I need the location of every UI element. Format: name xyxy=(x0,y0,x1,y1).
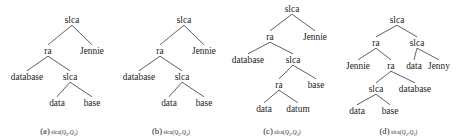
tree-node-root: slca xyxy=(390,15,405,25)
caption-q1-subscript: 2 xyxy=(66,132,68,137)
caption-fn-name: slca( xyxy=(164,129,175,135)
tree-node-inner-slca: slca xyxy=(175,72,190,82)
tree-edge xyxy=(357,94,376,105)
panel-a-edges xyxy=(0,0,118,140)
panel-c: slcaraJenniedatabaseslcarabasedatadatum(… xyxy=(222,0,342,140)
tree-node-right-child: Jennie xyxy=(80,46,104,56)
tree-node-left-child: ra xyxy=(44,46,51,56)
tree-edge xyxy=(376,94,390,105)
caption-expression: slca(Q2,Q2) xyxy=(391,129,417,135)
tree-edge xyxy=(160,25,184,45)
panel-a-caption: (a)slca(Q2,Q2) xyxy=(0,126,118,137)
caption-expression: slca(Q2,Q2) xyxy=(274,129,300,135)
tree-edge xyxy=(358,48,376,60)
tree-node-left-ra: ra xyxy=(372,38,379,48)
tree-node-data-leaf: data xyxy=(161,98,177,108)
tree-node-data-leaf: data xyxy=(256,104,272,114)
tree-node-database-leaf: database xyxy=(399,84,431,94)
tree-node-database-leaf: database xyxy=(232,55,264,65)
tree-node-jenny-leaf: Jenny xyxy=(428,61,450,71)
tree-node-base-leaf: base xyxy=(84,98,101,108)
tree-node-inner-slca: slca xyxy=(286,55,301,65)
tree-node-database-leaf: database xyxy=(11,72,43,82)
tree-edge xyxy=(376,48,391,60)
caption-tag: (a) xyxy=(40,126,50,136)
tree-node-right-slca: slca xyxy=(410,38,425,48)
tree-node-base-leaf: base xyxy=(308,80,325,90)
tree-edge xyxy=(48,56,70,71)
tree-node-left-child: ra xyxy=(156,46,163,56)
panel-d-caption: (d)slca(Q2,Q2) xyxy=(337,126,460,137)
tree-node-data-leaf-top: data xyxy=(406,61,422,71)
tree-node-inner-slca: slca xyxy=(369,84,384,94)
tree-edge xyxy=(376,25,397,37)
caption-q1-subscript: 2 xyxy=(289,132,291,137)
panel-c-caption: (c)slca(Q2,Q2) xyxy=(222,126,342,137)
tree-edge xyxy=(292,14,315,31)
tree-node-root: slca xyxy=(285,4,300,14)
tree-node-jennie-leaf: Jennie xyxy=(346,61,370,71)
caption-expression: slca(Q2,Q2) xyxy=(51,129,77,135)
tree-edge xyxy=(184,25,204,45)
caption-q2-subscript: 2 xyxy=(297,132,299,137)
panel-b-edges xyxy=(112,0,230,140)
tree-node-root: slca xyxy=(177,15,192,25)
caption-fn-name: slca( xyxy=(51,129,62,135)
caption-tag: (b) xyxy=(152,126,162,136)
tree-edge xyxy=(279,90,298,103)
tree-edge xyxy=(48,25,72,45)
tree-edge xyxy=(397,25,417,37)
tree-edge xyxy=(293,65,316,79)
tree-edge xyxy=(182,82,204,97)
panel-d: slcaraslcaJennieradataJennyslcadatabased… xyxy=(337,0,460,140)
caption-close-paren: ) xyxy=(76,129,78,135)
tree-node-datum-leaf: datum xyxy=(286,104,310,114)
tree-node-root: slca xyxy=(65,15,80,25)
caption-expression: slca(Q2,Q2) xyxy=(164,129,190,135)
tree-edge xyxy=(57,82,70,97)
tree-edge xyxy=(160,56,182,71)
tree-node-data-leaf-bottom: data xyxy=(349,106,365,116)
caption-q2-subscript: 2 xyxy=(74,132,76,137)
tree-edge xyxy=(72,25,92,45)
tree-node-mid-ra: ra xyxy=(387,61,394,71)
caption-tag: (c) xyxy=(263,126,273,136)
panel-a: slcaraJenniedatabaseslcadatabase(a)slca(… xyxy=(0,0,118,140)
tree-node-inner-ra: ra xyxy=(275,80,282,90)
tree-node-right-child: Jennie xyxy=(303,32,327,42)
tree-edge xyxy=(169,82,182,97)
tree-node-left-child: ra xyxy=(266,32,273,42)
caption-q2-subscript: 2 xyxy=(186,132,188,137)
caption-q2-subscript: 2 xyxy=(413,132,415,137)
tree-edge xyxy=(70,82,92,97)
caption-tag: (d) xyxy=(380,126,390,136)
tree-edge xyxy=(139,56,160,71)
tree-node-inner-slca: slca xyxy=(63,72,78,82)
panel-b-caption: (b)slca(Q2,Q2) xyxy=(112,126,230,137)
caption-fn-name: slca( xyxy=(274,129,285,135)
caption-fn-name: slca( xyxy=(391,129,402,135)
tree-node-right-child: Jennie xyxy=(192,46,216,56)
tree-edge xyxy=(279,65,293,79)
tree-edge xyxy=(264,90,279,103)
tree-node-database-leaf: database xyxy=(123,72,155,82)
caption-q1-subscript: 2 xyxy=(406,132,408,137)
tree-edge xyxy=(270,42,293,54)
tree-edge xyxy=(248,42,270,54)
tree-node-base-leaf: base xyxy=(196,98,213,108)
caption-close-paren: ) xyxy=(299,129,301,135)
panel-c-edges xyxy=(222,0,342,140)
caption-close-paren: ) xyxy=(188,129,190,135)
tree-edge xyxy=(27,56,48,71)
panel-b: slcaraJenniedatabaseslcadatabase(b)slca(… xyxy=(112,0,230,140)
tree-node-data-leaf: data xyxy=(49,98,65,108)
tree-edge xyxy=(391,71,415,83)
tree-edge xyxy=(417,48,439,60)
figure-tree-row: slcaraJenniedatabaseslcadatabase(a)slca(… xyxy=(0,0,460,140)
tree-edge xyxy=(414,48,417,60)
tree-edge xyxy=(376,71,391,83)
tree-node-base-leaf: base xyxy=(382,106,399,116)
tree-edge xyxy=(270,14,292,31)
